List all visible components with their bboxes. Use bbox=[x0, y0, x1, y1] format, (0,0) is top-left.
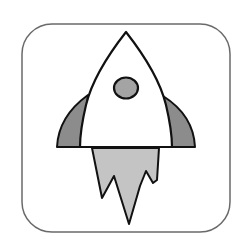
rocket-app-icon[interactable]: Rocket bbox=[0, 0, 246, 252]
porthole-icon bbox=[114, 78, 138, 99]
